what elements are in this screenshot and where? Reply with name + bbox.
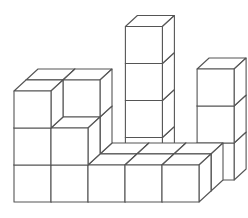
cube-face — [197, 106, 234, 143]
cube-face — [125, 165, 162, 202]
cube-face — [125, 101, 162, 138]
cube-face — [125, 64, 162, 101]
cube-face — [14, 91, 51, 128]
cube-face — [88, 165, 125, 202]
cube-face — [14, 165, 51, 202]
cube-face — [162, 165, 199, 202]
cube-face — [125, 27, 162, 64]
cube-face — [51, 128, 88, 165]
cube-face — [14, 128, 51, 165]
cube-face — [63, 80, 100, 117]
cube-face — [51, 165, 88, 202]
cube-structure — [0, 0, 248, 218]
cube-face — [197, 69, 234, 106]
